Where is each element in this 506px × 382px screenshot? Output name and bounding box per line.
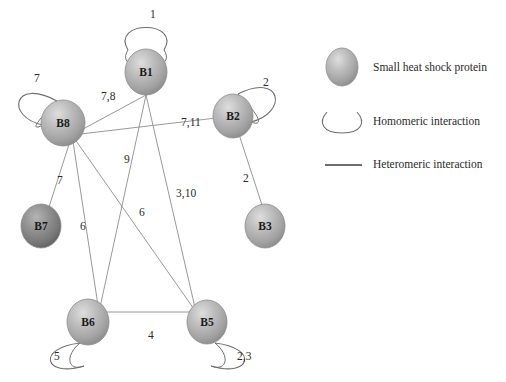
node-label: B5 — [200, 316, 214, 328]
node-label: B2 — [226, 110, 240, 122]
node-b3[interactable]: B3 — [245, 204, 285, 248]
edge-label: 3,10 — [176, 187, 196, 200]
edge-label: 7,8 — [101, 90, 116, 103]
legend-label-heteromeric: Heteromeric interaction — [373, 158, 483, 170]
loop-arc-inner — [70, 343, 84, 367]
loop-arc-inner — [211, 343, 225, 367]
node-b5[interactable]: B5 — [187, 300, 227, 344]
legend-item-protein: Small heat shock protein — [326, 48, 487, 86]
figure-canvas: B1B2B3B5B6B7B8 7,87,1176693,102417252,3 … — [0, 0, 506, 382]
edge-label: 7 — [57, 174, 63, 186]
edge-label: 2 — [243, 172, 249, 184]
loop-label: 7 — [34, 72, 40, 84]
loop-label: 2,3 — [237, 350, 252, 363]
node-label: B8 — [56, 117, 70, 129]
loop-icon — [322, 112, 361, 133]
node-label: B6 — [81, 316, 95, 328]
edge-label: 6 — [139, 206, 145, 218]
edge-label: 6 — [80, 220, 86, 232]
nodes-group: B1B2B3B5B6B7B8 — [21, 49, 285, 345]
node-label: B7 — [34, 220, 48, 232]
edge-label: 4 — [148, 329, 154, 341]
legend-item-heteromeric: Heteromeric interaction — [325, 158, 483, 170]
hetero-edge — [99, 95, 146, 312]
sphere-icon — [326, 48, 358, 86]
legend-label-protein: Small heat shock protein — [373, 61, 487, 74]
legend: Small heat shock protein Homomeric inter… — [322, 48, 487, 170]
loop-label: 1 — [150, 8, 156, 20]
node-b6[interactable]: B6 — [67, 299, 109, 345]
edge-label: 7,11 — [181, 116, 201, 129]
node-b8[interactable]: B8 — [41, 100, 85, 146]
loop-label: 2 — [263, 76, 269, 88]
legend-label-homomeric: Homomeric interaction — [373, 115, 480, 127]
node-b2[interactable]: B2 — [213, 94, 253, 138]
node-label: B3 — [258, 220, 272, 232]
node-b1[interactable]: B1 — [125, 49, 167, 95]
hetero-edge — [72, 116, 233, 135]
network-diagram: B1B2B3B5B6B7B8 7,87,1176693,102417252,3 … — [0, 0, 506, 382]
hetero-edge — [72, 135, 196, 312]
edge-label: 9 — [124, 153, 130, 165]
loop-label: 5 — [54, 350, 60, 362]
node-label: B1 — [139, 66, 153, 78]
node-b7[interactable]: B7 — [21, 204, 61, 248]
legend-item-homomeric: Homomeric interaction — [322, 112, 480, 133]
loop-arc-outer — [125, 28, 167, 51]
